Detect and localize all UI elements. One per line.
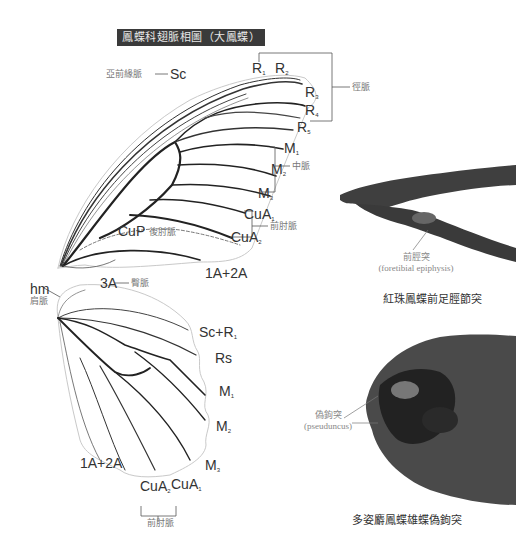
subcostal-vein-cn-label: 亞前緣脈: [106, 69, 142, 79]
hm-label: hm: [30, 282, 49, 296]
foretibial-epiphysis-annotation: 前脛突 (foretibial epiphysis): [366, 252, 466, 274]
hindwing: [57, 285, 209, 477]
m3-label: M3: [258, 186, 273, 205]
cup-label: CuP: [118, 224, 145, 238]
r5-label: R5: [297, 120, 310, 139]
r2-label: R2: [275, 61, 288, 80]
hind-cua2-label: CuA2: [140, 479, 171, 498]
3a-label: 3A: [100, 276, 117, 290]
m2-label: M2: [271, 162, 286, 181]
r1-label: R1: [252, 61, 265, 80]
radial-vein-cn-label: 徑脈: [352, 82, 370, 92]
cua2-label: CuA2: [231, 230, 262, 249]
leg-photo-caption: 紅珠鳳蝶前足脛節突: [383, 290, 482, 306]
posterior-cubitus-cn-label: 後肘脈: [149, 227, 176, 237]
rs-label: Rs: [215, 351, 232, 365]
1a2a-forewing-label: 1A+2A: [205, 266, 247, 280]
head-photo-caption: 多姿麝鳳蝶雄蝶偽鉤突: [352, 511, 462, 527]
hind-cubital-vein-cn-label: 前肘脈: [147, 518, 174, 528]
m1-label: M1: [284, 141, 299, 160]
hind-cua1-label: CuA1: [171, 477, 202, 496]
sc-r1-label: Sc+R1: [199, 325, 237, 344]
hind-m1-label: M1: [219, 384, 234, 403]
leg-photo: [340, 165, 516, 262]
1a2a-hindwing-label: 1A+2A: [80, 456, 122, 470]
median-vein-cn-label: 中脈: [292, 161, 310, 171]
humeral-vein-cn-label: 肩脈: [30, 296, 48, 306]
pseuduncus-annotation: 偽鉤突 (pseuduncus): [298, 410, 358, 432]
head-photo: [344, 335, 516, 505]
hind-m2-label: M2: [216, 419, 231, 438]
hind-m3-label: M3: [205, 458, 220, 477]
cubital-vein-cn-label: 前肘脈: [270, 221, 297, 231]
sc-label: Sc: [170, 67, 186, 81]
anal-vein-cn-label: 臀脈: [131, 278, 149, 288]
